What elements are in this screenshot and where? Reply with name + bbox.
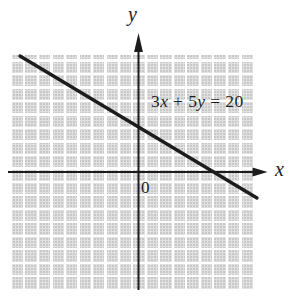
equation-label: 3x + 5y = 20 [151, 93, 244, 111]
origin-label: 0 [141, 179, 150, 196]
graph-figure: y x 0 3x + 5y = 20 [0, 0, 292, 297]
equation-segment: = 20 [205, 91, 243, 111]
equation-segment: + 5 [168, 91, 197, 111]
plot-canvas [0, 0, 292, 297]
y-axis-arrow-icon [134, 33, 143, 52]
x-axis-label: x [275, 159, 284, 179]
y-axis-label: y [128, 4, 137, 24]
equation-segment: 3 [151, 91, 160, 111]
x-axis-arrow-icon [253, 168, 268, 177]
